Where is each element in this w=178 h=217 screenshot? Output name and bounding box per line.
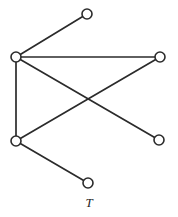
graph-edge-v2-v1 <box>20 17 82 55</box>
graph-figure: T <box>0 0 178 217</box>
graph-edges-group <box>16 17 156 181</box>
graph-vertex-v4 <box>154 135 164 145</box>
graph-vertex-v1 <box>82 9 92 19</box>
graph-vertex-v2 <box>11 52 21 62</box>
figure-caption-label: T <box>0 196 178 210</box>
graph-canvas <box>0 0 178 217</box>
graph-vertex-v5 <box>11 136 21 146</box>
graph-vertex-v3 <box>155 52 165 62</box>
graph-edge-v5-v6 <box>20 144 83 181</box>
graph-vertex-v6 <box>83 178 93 188</box>
